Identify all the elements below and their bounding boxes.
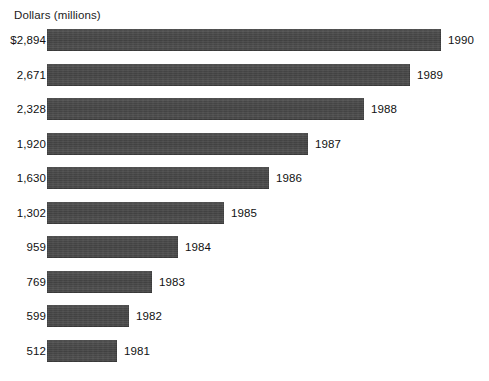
bar-value-label: 599 [27, 310, 47, 322]
bar [47, 236, 178, 258]
bar-value-label: 1,920 [17, 138, 46, 150]
bar-row: 9591984 [0, 236, 489, 258]
bar-texture [47, 64, 410, 86]
bar-track: 1986 [47, 167, 489, 189]
bar-texture [47, 202, 224, 224]
bar-row: 1,6301986 [0, 167, 489, 189]
bar-texture [47, 271, 152, 293]
bar [47, 271, 152, 293]
bar-texture [47, 167, 269, 189]
bar-category-label: 1984 [185, 241, 211, 253]
bar-texture [47, 305, 129, 327]
bar-track: 1981 [47, 340, 489, 362]
bar [47, 64, 410, 86]
bar-track: 1988 [47, 98, 489, 120]
bar-category-label: 1990 [448, 34, 474, 46]
bar-row: 5991982 [0, 305, 489, 327]
bar-track: 1982 [47, 305, 489, 327]
bar-category-label: 1985 [231, 207, 257, 219]
bar-row: $2,8941990 [0, 29, 489, 51]
bar-value-label: 959 [27, 241, 47, 253]
bar-row: 7691983 [0, 271, 489, 293]
bar-texture [47, 133, 308, 155]
bar-value-label: 1,302 [17, 207, 46, 219]
bar-category-label: 1989 [417, 69, 443, 81]
bar-category-label: 1986 [276, 172, 302, 184]
bar-value-label: 512 [27, 345, 47, 357]
bar [47, 167, 269, 189]
bar-category-label: 1982 [136, 310, 162, 322]
bar [47, 98, 364, 120]
bar-value-label: 2,328 [17, 103, 46, 115]
bar-value-label: $2,894 [10, 34, 46, 46]
bar-row: 5121981 [0, 340, 489, 362]
bar [47, 202, 224, 224]
bar-value-label: 1,630 [17, 172, 46, 184]
bar-row: 1,9201987 [0, 133, 489, 155]
bar [47, 133, 308, 155]
bar-value-label: 2,671 [17, 69, 46, 81]
bar-category-label: 1988 [371, 103, 397, 115]
bar-track: 1990 [47, 29, 489, 51]
bar [47, 340, 117, 362]
horizontal-bar-chart: Dollars (millions) $2,89419902,67119892,… [0, 0, 489, 381]
bar-texture [47, 29, 441, 51]
bar-category-label: 1983 [159, 276, 185, 288]
bar-texture [47, 98, 364, 120]
bar-track: 1985 [47, 202, 489, 224]
bar-row: 2,3281988 [0, 98, 489, 120]
bar-track: 1983 [47, 271, 489, 293]
bar-row: 1,3021985 [0, 202, 489, 224]
plot-area: $2,89419902,67119892,32819881,92019871,6… [0, 27, 489, 372]
bar [47, 29, 441, 51]
bar-texture [47, 236, 178, 258]
bar-value-label: 769 [27, 276, 47, 288]
bar-texture [47, 340, 117, 362]
chart-footnote [60, 370, 480, 379]
axis-title: Dollars (millions) [14, 9, 101, 21]
bar-track: 1989 [47, 64, 489, 86]
bar [47, 305, 129, 327]
bar-category-label: 1987 [315, 138, 341, 150]
bar-track: 1987 [47, 133, 489, 155]
bar-row: 2,6711989 [0, 64, 489, 86]
bar-track: 1984 [47, 236, 489, 258]
bar-category-label: 1981 [124, 345, 150, 357]
